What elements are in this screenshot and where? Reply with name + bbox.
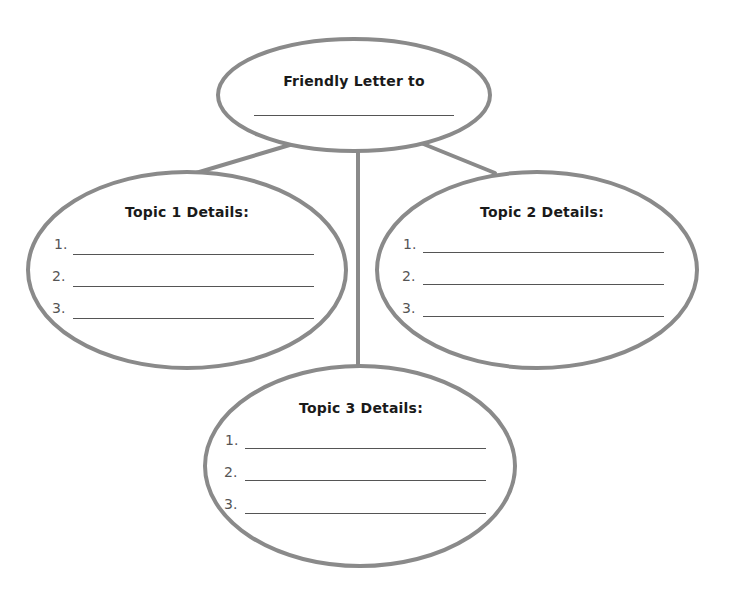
topic2-item2-number: 2. (402, 268, 415, 284)
topic1-item1-blank[interactable] (73, 254, 314, 255)
topic2-item3-number: 3. (402, 300, 415, 316)
central-title: Friendly Letter to (254, 73, 454, 89)
topic3-item1-blank[interactable] (245, 448, 486, 449)
topic1-item2-number: 2. (52, 268, 65, 284)
central-recipient-blank[interactable] (254, 115, 454, 116)
topic2-item2-blank[interactable] (423, 284, 664, 285)
topic2-item3-blank[interactable] (423, 316, 664, 317)
topic2-item1-number: 1. (403, 236, 416, 252)
topic1-item3-blank[interactable] (73, 318, 314, 319)
topic1-item2-blank[interactable] (73, 286, 314, 287)
topic3-item2-number: 2. (224, 464, 237, 480)
topic3-item3-blank[interactable] (245, 513, 486, 514)
topic1-title: Topic 1 Details: (97, 204, 277, 220)
topic1-item3-number: 3. (52, 300, 65, 316)
topic1-item1-number: 1. (54, 236, 67, 252)
topic3-title: Topic 3 Details: (271, 400, 451, 416)
topic3-item2-blank[interactable] (245, 480, 486, 481)
topic3-item3-number: 3. (224, 496, 237, 512)
topic3-item1-number: 1. (225, 432, 238, 448)
topic2-item1-blank[interactable] (423, 252, 664, 253)
organizer-text: Friendly Letter to Topic 1 Details: 1. 2… (0, 0, 731, 604)
topic2-title: Topic 2 Details: (452, 204, 632, 220)
